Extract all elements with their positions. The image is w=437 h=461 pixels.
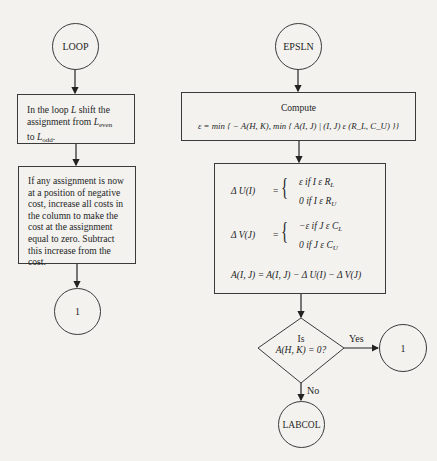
delta-v-eq: = bbox=[273, 230, 278, 240]
compute-epsilon-box: Compute ε = min { − A(H, K), min { A(I, … bbox=[181, 92, 416, 141]
delta-u-eq: = bbox=[273, 186, 278, 196]
epsilon-formula: ε = min { − A(H, K), min { A(I, J) | (I,… bbox=[182, 121, 415, 133]
delta-v-case1: −ε if J ε CL bbox=[299, 221, 342, 233]
labcol-connector: LABCOL bbox=[278, 401, 325, 448]
delta-u-brace: { bbox=[281, 174, 288, 199]
step2-line: the column to make the bbox=[28, 210, 131, 222]
step2-line: equal to zero. Subtract bbox=[28, 233, 131, 245]
connector-1-label: 1 bbox=[401, 343, 406, 354]
yes-label: Yes bbox=[349, 333, 364, 344]
labcol-label: LABCOL bbox=[283, 420, 321, 430]
off-page-connector-1-left: 1 bbox=[54, 288, 101, 335]
delta-u-case1: ε if I ε RL bbox=[299, 177, 334, 189]
delta-u-case2: 0 if I ε RU bbox=[299, 196, 336, 208]
step2-line: cost. bbox=[28, 256, 131, 268]
epsln-label: EPSLN bbox=[283, 41, 314, 52]
step2-line: cost, increase all costs in bbox=[28, 198, 131, 210]
step2-line: cost at the assignment bbox=[28, 221, 131, 233]
cost-update-formula: A(I, J) = A(I, J) − Δ U(I) − Δ V(J) bbox=[231, 270, 361, 280]
delta-v-lhs: Δ V(J) bbox=[231, 230, 255, 240]
delta-v-case2: 0 if J ε CU bbox=[299, 240, 338, 252]
negative-cost-adjust-box: If any assignment is now at a position o… bbox=[18, 166, 136, 264]
off-page-connector-1-right: 1 bbox=[379, 324, 427, 372]
no-label: No bbox=[307, 385, 319, 396]
step2-line: If any assignment is now bbox=[28, 175, 131, 187]
epsln-connector: EPSLN bbox=[275, 23, 322, 70]
step2-line: this increase from the bbox=[28, 245, 131, 257]
dual-update-box: Δ U(I) = { ε if I ε RL 0 if I ε RU Δ V(J… bbox=[214, 163, 386, 294]
step2-line: at a position of negative bbox=[28, 187, 131, 199]
decision-text: Is A(H, K) = 0? bbox=[258, 334, 344, 356]
delta-v-brace: { bbox=[281, 218, 288, 243]
delta-u-lhs: Δ U(I) bbox=[231, 186, 255, 196]
loop-label: LOOP bbox=[62, 41, 88, 52]
compute-title: Compute bbox=[182, 102, 415, 114]
shift-assignment-box: In the loop L shift the assignment from … bbox=[17, 94, 135, 144]
loop-connector: LOOP bbox=[52, 23, 99, 70]
connector-1-label: 1 bbox=[75, 306, 80, 317]
